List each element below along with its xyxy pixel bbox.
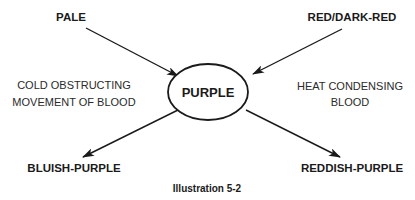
output-label-bluish-purple: BLUISH-PURPLE	[27, 162, 121, 174]
output-label-reddish-purple: REDDISH-PURPLE	[301, 162, 404, 174]
arrow-red-to-purple	[253, 29, 342, 74]
input-label-red-dark-red: RED/DARK-RED	[308, 11, 397, 23]
arrow-purple-to-bluish	[83, 110, 178, 157]
input-label-pale: PALE	[56, 11, 86, 23]
cause-right-line1: HEAT CONDENSING	[297, 80, 403, 92]
arrow-purple-to-reddish	[246, 110, 340, 157]
cause-left-line1: COLD OBSTRUCTING	[17, 79, 131, 91]
cause-left-line2: MOVEMENT OF BLOOD	[12, 96, 135, 108]
purple-tongue-diagram: PURPLE PALE RED/DARK-RED COLD OBSTRUCTIN…	[0, 0, 415, 200]
cause-right-line2: BLOOD	[331, 96, 370, 108]
center-node-label: PURPLE	[182, 85, 235, 100]
arrow-pale-to-purple	[86, 28, 178, 76]
figure-caption: Illustration 5-2	[173, 183, 242, 194]
